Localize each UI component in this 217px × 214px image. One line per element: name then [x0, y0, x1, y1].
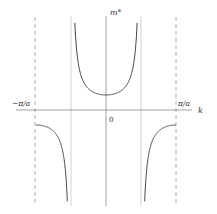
origin-label: 0	[109, 116, 113, 124]
x-axis-label: k	[198, 106, 203, 115]
curve-left-negative	[36, 125, 67, 201]
curve-right-negative	[145, 125, 176, 201]
effective-mass-chart: m* k −π/a π/a 0	[0, 0, 217, 214]
right-edge-label: π/a	[177, 99, 190, 108]
left-edge-label: −π/a	[12, 99, 30, 108]
y-axis-label: m*	[110, 8, 122, 17]
